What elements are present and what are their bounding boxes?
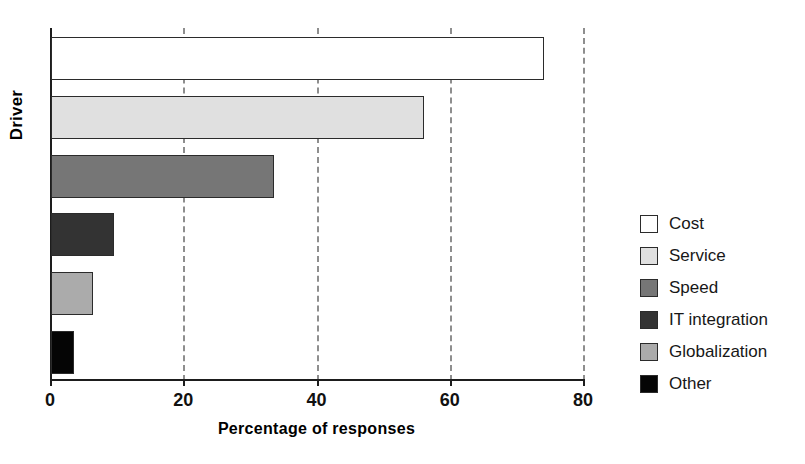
legend-item: Speed	[640, 272, 800, 304]
bar-chart: Driver 020406080 Percentage of responses…	[0, 0, 805, 464]
legend-label: IT integration	[669, 310, 768, 330]
legend-item: Cost	[640, 208, 800, 240]
x-tick-label: 40	[287, 390, 347, 411]
plot-area: 020406080	[50, 28, 583, 381]
legend-item: Service	[640, 240, 800, 272]
legend-swatch-icon	[640, 343, 658, 361]
legend-swatch-icon	[640, 215, 658, 233]
bar-cost	[51, 37, 544, 80]
tick-mark	[183, 379, 185, 386]
x-tick-label: 0	[20, 390, 80, 411]
legend-label: Globalization	[669, 342, 767, 362]
legend-swatch-icon	[640, 247, 658, 265]
gridline	[583, 28, 585, 381]
tick-mark	[50, 379, 52, 386]
legend-item: Globalization	[640, 336, 800, 368]
tick-mark	[450, 379, 452, 386]
bar-globalization	[51, 272, 93, 315]
x-tick-label: 80	[553, 390, 613, 411]
x-axis-title: Percentage of responses	[50, 420, 583, 438]
gridline	[317, 28, 319, 381]
legend-label: Other	[669, 374, 712, 394]
legend: CostServiceSpeedIT integrationGlobalizat…	[640, 208, 800, 400]
tick-mark	[583, 379, 585, 386]
bar-other	[51, 331, 74, 374]
legend-swatch-icon	[640, 375, 658, 393]
legend-item: IT integration	[640, 304, 800, 336]
bar-it-integration	[51, 213, 114, 256]
bar-speed	[51, 155, 274, 198]
x-tick-label: 20	[153, 390, 213, 411]
legend-swatch-icon	[640, 279, 658, 297]
tick-mark	[317, 379, 319, 386]
legend-label: Speed	[669, 278, 718, 298]
legend-swatch-icon	[640, 311, 658, 329]
x-tick-label: 60	[420, 390, 480, 411]
gridline	[450, 28, 452, 381]
y-axis-line	[50, 28, 52, 381]
bar-service	[51, 96, 424, 139]
legend-label: Service	[669, 246, 726, 266]
legend-item: Other	[640, 368, 800, 400]
legend-label: Cost	[669, 214, 704, 234]
y-axis-title: Driver	[2, 50, 32, 180]
gridline	[183, 28, 185, 381]
